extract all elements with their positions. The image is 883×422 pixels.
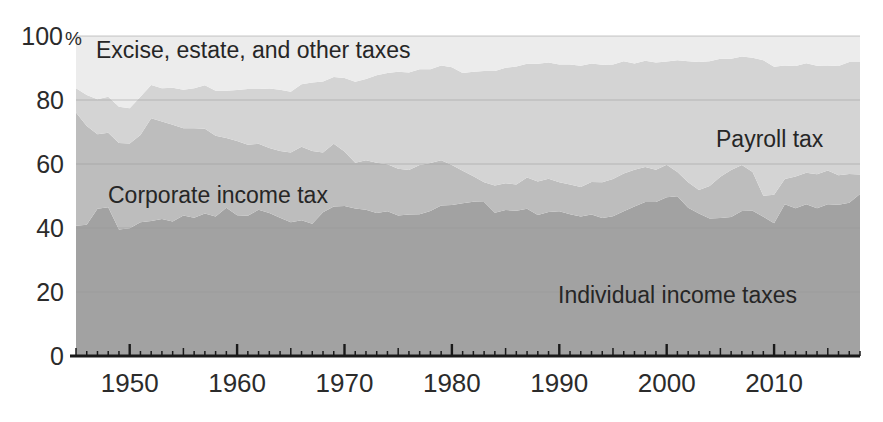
y-tick-label-40: 40 [36,214,64,242]
stacked-area-chart: 020406080100% 19501960197019801990200020… [0,0,883,422]
chart-page: 020406080100% 19501960197019801990200020… [0,0,883,422]
area-individual_income_taxes [76,194,860,356]
corporate-income-tax-label: Corporate income tax [108,182,328,208]
y-tick-label-100: 100 [21,22,63,50]
y-axis-percent-symbol: % [65,28,82,49]
y-tick-label-60: 60 [36,150,64,178]
excise-estate-other-label: Excise, estate, and other taxes [96,37,411,63]
x-tick-label-1950: 1950 [101,368,159,398]
y-tick-label-80: 80 [36,86,64,114]
x-tick-label-1970: 1970 [316,368,374,398]
x-tick-label-2010: 2010 [745,368,803,398]
payroll-tax-label: Payroll tax [716,126,824,152]
individual-income-taxes-label: Individual income taxes [558,282,797,308]
y-tick-label-20: 20 [36,278,64,306]
x-tick-label-1990: 1990 [530,368,588,398]
x-tick-label-1980: 1980 [423,368,481,398]
x-tick-label-1960: 1960 [208,368,266,398]
y-tick-label-0: 0 [50,342,64,370]
x-tick-label-2000: 2000 [638,368,696,398]
